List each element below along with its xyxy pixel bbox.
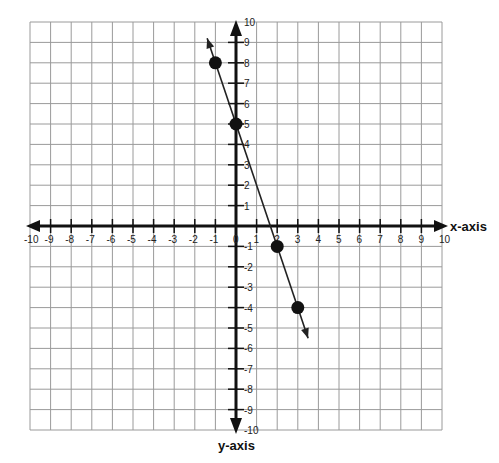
axes	[26, 20, 448, 434]
y-tick-label: 8	[244, 58, 250, 69]
x-tick-label: -3	[168, 234, 177, 245]
y-axis-title: y-axis	[218, 438, 255, 453]
x-axis-arrow-right-icon	[434, 220, 448, 232]
data-point	[291, 301, 304, 314]
x-axis-arrow-left-icon	[26, 220, 40, 232]
x-tick-label: -7	[86, 234, 95, 245]
x-tick-label: 3	[295, 234, 301, 245]
x-tick-label: 7	[377, 234, 383, 245]
x-tick-label: 10	[439, 234, 451, 245]
x-tick-label: 6	[357, 234, 363, 245]
y-tick-label: 6	[244, 99, 250, 110]
x-tick-label: -1	[209, 234, 218, 245]
x-tick-label: 5	[336, 234, 342, 245]
x-tick-label: 4	[315, 234, 321, 245]
y-tick-label: 7	[244, 78, 250, 89]
y-tick-label: -2	[244, 262, 253, 273]
y-tick-label: 10	[244, 17, 256, 28]
x-tick-label: -2	[189, 234, 198, 245]
x-tick-label: 0	[233, 234, 239, 245]
data-point	[209, 56, 222, 69]
y-tick-label: -4	[244, 303, 253, 314]
x-tick-label: -10	[24, 234, 39, 245]
x-tick-label: 9	[418, 234, 424, 245]
y-tick-label: -10	[244, 425, 259, 436]
line-arrow-start-icon	[207, 38, 215, 49]
y-tick-label: -1	[244, 241, 253, 252]
x-tick-label: 8	[398, 234, 404, 245]
y-tick-label: -9	[244, 405, 253, 416]
y-axis-arrow-down-icon	[230, 418, 242, 434]
y-tick-label: -3	[244, 282, 253, 293]
y-tick-label: -6	[244, 343, 253, 354]
line-arrow-end-icon	[301, 327, 309, 338]
x-axis-title: x-axis	[450, 219, 487, 234]
data-point	[271, 240, 284, 253]
y-tick-label: 2	[244, 180, 250, 191]
x-tick-label: -8	[65, 234, 74, 245]
x-tick-label: -9	[45, 234, 54, 245]
y-tick-label: -7	[244, 364, 253, 375]
y-tick-label: -8	[244, 384, 253, 395]
y-tick-label: -5	[244, 323, 253, 334]
data-point	[230, 118, 243, 131]
x-tick-label: 1	[254, 234, 260, 245]
x-tick-label: -6	[106, 234, 115, 245]
y-tick-label: 9	[244, 37, 250, 48]
coordinate-plane: -10-9-8-7-6-5-4-3-2-1012345678910-10-9-8…	[0, 0, 499, 463]
y-tick-label: 1	[244, 201, 250, 212]
y-tick-label: 5	[244, 119, 250, 130]
x-tick-label: -4	[148, 234, 157, 245]
x-tick-label: -5	[127, 234, 136, 245]
